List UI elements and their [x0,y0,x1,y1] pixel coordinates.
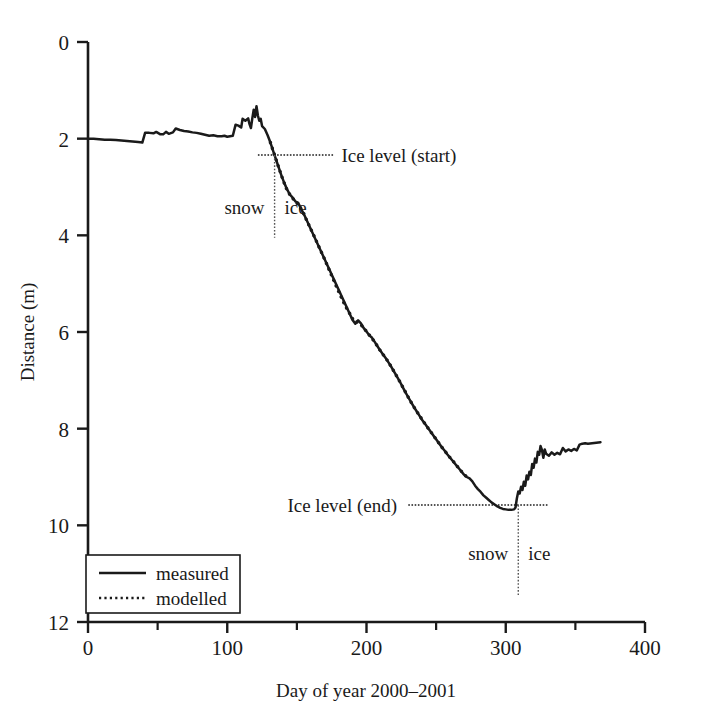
y-tick-label: 4 [59,224,70,248]
chart-figure: Ice level (start)Ice level (end)snowices… [0,0,702,719]
y-tick-label: 6 [59,321,70,345]
x-tick-label: 300 [490,636,522,660]
y-tick-label: 8 [59,418,70,442]
snow-ice-divider-start-label-ice: ice [285,197,307,218]
snow-ice-divider-end-label-ice: ice [528,543,550,564]
y-axis-title: Distance (m) [17,283,39,382]
y-tick-label: 10 [48,514,69,538]
y-tick-label: 2 [59,128,70,152]
y-tick-label: 12 [48,611,69,635]
legend-label-modelled: modelled [156,588,227,609]
x-tick-label: 0 [83,636,94,660]
ice-level-start-label: Ice level (start) [341,145,456,167]
legend-box: measured modelled [86,555,240,613]
snow-ice-divider-start-label-snow: snow [224,197,264,218]
y-tick-label: 0 [59,31,70,55]
snow-ice-divider-end-label-snow: snow [468,543,508,564]
distance-vs-day-line-chart: Ice level (start)Ice level (end)snowices… [0,0,702,719]
legend-label-measured: measured [156,563,229,584]
ice-level-end-label: Ice level (end) [287,495,397,517]
x-tick-label: 100 [212,636,244,660]
x-axis-title: Day of year 2000–2001 [276,680,456,701]
x-tick-label: 400 [629,636,661,660]
x-tick-label: 200 [351,636,383,660]
